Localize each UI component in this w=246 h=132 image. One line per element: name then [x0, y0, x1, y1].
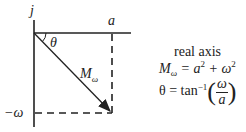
axis-title: real axis [174, 45, 221, 59]
real-value-label: a [108, 14, 115, 28]
angle-arc [43, 33, 47, 42]
imag-value-label: −ω [4, 106, 23, 120]
angle-label: θ [50, 36, 57, 50]
magnitude-vector [34, 33, 110, 111]
imag-axis-label: j [30, 4, 34, 18]
magnitude-label: Mω [80, 67, 98, 84]
angle-equation: θ = tan−1(ωa) [159, 77, 237, 107]
